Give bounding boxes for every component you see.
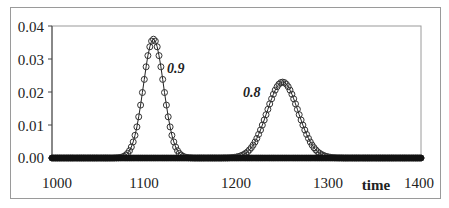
y-tick-label: 0.02 (18, 85, 44, 101)
x-tick-label: 1200 (221, 175, 251, 191)
plot-area (52, 26, 421, 158)
x-tick-label: 1100 (129, 175, 158, 191)
y-tick-label: 0.00 (18, 150, 44, 166)
y-tick-label: 0.04 (18, 19, 45, 35)
y-tick-label: 0.03 (18, 52, 44, 68)
x-tick-label: 1400 (404, 175, 434, 191)
y-ticks (48, 26, 52, 158)
x-axis-title: time (362, 177, 391, 193)
annotation-0.9: 0.9 (167, 61, 185, 76)
x-tick-label: 1300 (313, 175, 343, 191)
series-group (49, 36, 424, 161)
annotation-0.8: 0.8 (243, 85, 261, 100)
line-chart: 0.00 0.01 0.02 0.03 0.04 1000 1100 1200 … (0, 0, 449, 208)
y-tick-label: 0.01 (18, 118, 44, 134)
x-tick-label: 1000 (42, 175, 72, 191)
